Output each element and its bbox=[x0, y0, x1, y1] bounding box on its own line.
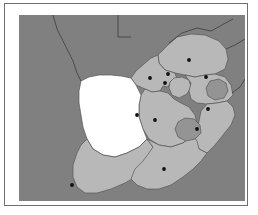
city-dot-cape-town[interactable] bbox=[70, 183, 74, 187]
city-dot-durban[interactable] bbox=[195, 127, 199, 131]
city-dot-mbombela[interactable] bbox=[204, 75, 208, 79]
figure-border bbox=[4, 3, 248, 206]
city-dot-pretoria[interactable] bbox=[166, 72, 170, 76]
city-dot-mahikeng[interactable] bbox=[148, 76, 152, 80]
city-dot-bloemfontein[interactable] bbox=[153, 118, 157, 122]
enclave-eswatini[interactable] bbox=[206, 79, 228, 100]
south-africa-map[interactable] bbox=[19, 15, 245, 201]
city-dot-kimberley[interactable] bbox=[135, 113, 139, 117]
figure-page: South Africa Limpopo North West Gauteng … bbox=[0, 0, 258, 215]
city-dot-johannesburg[interactable] bbox=[163, 81, 167, 85]
map-vector bbox=[19, 15, 245, 201]
city-dot-bhisho[interactable] bbox=[162, 167, 166, 171]
city-dot-pietermaritzburg[interactable] bbox=[206, 107, 210, 111]
city-dot-polokwane[interactable] bbox=[187, 58, 191, 62]
